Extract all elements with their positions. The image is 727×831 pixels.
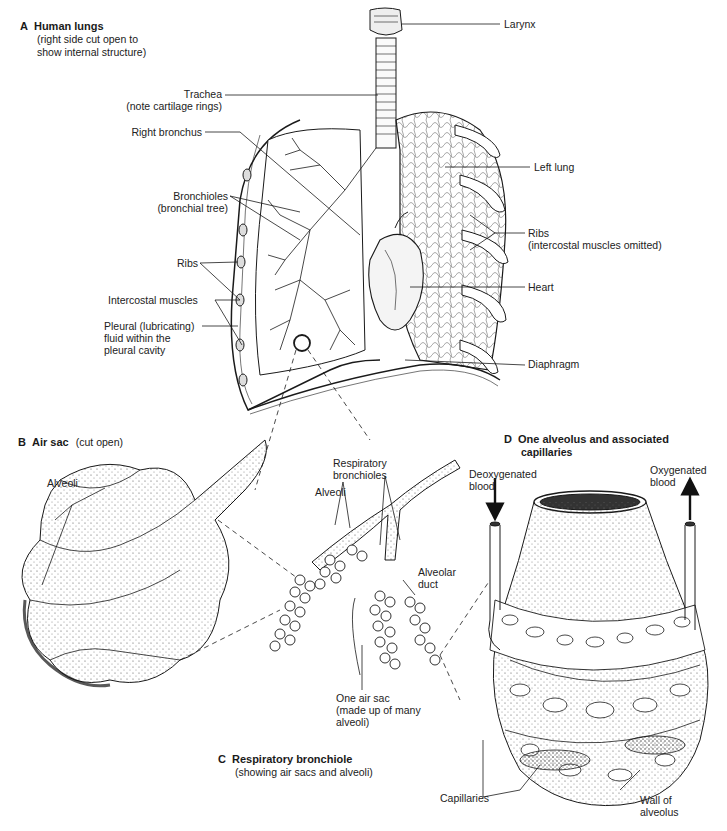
panel-letter: D bbox=[504, 433, 512, 445]
label-trachea: Trachea (note cartilage rings) bbox=[98, 88, 222, 112]
label-capillaries: Capillaries bbox=[440, 792, 489, 804]
label-text: Deoxygenated bbox=[469, 468, 537, 480]
label-bronchioles: Bronchioles (bronchial tree) bbox=[100, 190, 228, 214]
label-text: Pleural (lubricating) bbox=[104, 320, 194, 332]
label-alveoli-b: Alveoli bbox=[47, 477, 78, 489]
label-left-lung: Left lung bbox=[534, 161, 574, 173]
panel-title: Human lungs bbox=[34, 20, 104, 32]
label-deoxygenated-blood: Deoxygenated blood bbox=[469, 468, 537, 492]
label-text: blood bbox=[650, 476, 707, 488]
label-heart: Heart bbox=[528, 281, 554, 293]
label-ribs-right: Ribs (intercostal muscles omitted) bbox=[528, 227, 662, 251]
panel-subtitle: (right side cut open to bbox=[20, 33, 146, 46]
label-text: Respiratory bbox=[333, 457, 387, 469]
panel-subtitle: (showing air sacs and alveoli) bbox=[218, 766, 373, 779]
label-text: (bronchial tree) bbox=[100, 202, 228, 214]
panel-letter: B bbox=[18, 436, 26, 448]
label-alveolar-duct: Alveolar duct bbox=[418, 566, 456, 590]
panel-c-title: CRespiratory bronchiole (showing air sac… bbox=[218, 753, 373, 779]
panel-title: Air sac bbox=[32, 436, 69, 448]
label-text: (made up of many bbox=[336, 704, 421, 716]
panel-b-title: BAir sac (cut open) bbox=[18, 436, 123, 449]
label-text: Trachea bbox=[98, 88, 222, 100]
panel-title-cont: capillaries bbox=[504, 446, 669, 459]
label-text: (intercostal muscles omitted) bbox=[528, 239, 662, 251]
panel-letter: A bbox=[20, 20, 28, 32]
label-alveoli-c: Alveoli bbox=[315, 486, 346, 498]
label-text: pleural cavity bbox=[104, 344, 194, 356]
label-text: alveoli) bbox=[336, 716, 421, 728]
label-larynx: Larynx bbox=[504, 18, 536, 30]
label-text: blood bbox=[469, 480, 537, 492]
label-text: duct bbox=[418, 578, 456, 590]
label-text: fluid within the bbox=[104, 332, 194, 344]
label-text: bronchioles bbox=[333, 469, 387, 481]
label-text: Wall of bbox=[640, 794, 679, 806]
alveolus-illustration bbox=[489, 491, 708, 806]
panel-a-title: AHuman lungs (right side cut open to sho… bbox=[20, 20, 146, 59]
label-intercostal-muscles: Intercostal muscles bbox=[108, 294, 198, 306]
label-text: Bronchioles bbox=[100, 190, 228, 202]
label-text: Alveolar bbox=[418, 566, 456, 578]
label-pleural-fluid: Pleural (lubricating) fluid within the p… bbox=[104, 320, 194, 356]
label-oxygenated-blood: Oxygenated blood bbox=[650, 464, 707, 488]
label-text: alveolus bbox=[640, 806, 679, 818]
label-diaphragm: Diaphragm bbox=[528, 358, 579, 370]
label-one-air-sac: One air sac (made up of many alveoli) bbox=[336, 692, 421, 728]
lungs-illustration bbox=[231, 8, 508, 414]
respiratory-bronchiole-illustration bbox=[270, 460, 460, 669]
label-text: One air sac bbox=[336, 692, 421, 704]
panel-title: Respiratory bronchiole bbox=[232, 753, 352, 765]
panel-subtitle: show internal structure) bbox=[20, 46, 146, 59]
label-text: (note cartilage rings) bbox=[98, 100, 222, 112]
leader-lines-c bbox=[335, 476, 490, 700]
label-wall-of-alveolus: Wall of alveolus bbox=[640, 794, 679, 818]
panel-title: One alveolus and associated bbox=[518, 433, 669, 445]
label-right-bronchus: Right bronchus bbox=[100, 126, 202, 138]
label-respiratory-bronchioles: Respiratory bronchioles bbox=[333, 457, 387, 481]
label-ribs-left: Ribs bbox=[150, 257, 198, 269]
panel-d-title: DOne alveolus and associated capillaries bbox=[504, 433, 669, 459]
panel-subtitle: (cut open) bbox=[76, 436, 123, 448]
label-text: Oxygenated bbox=[650, 464, 707, 476]
panel-letter: C bbox=[218, 753, 226, 765]
label-text: Ribs bbox=[528, 227, 662, 239]
